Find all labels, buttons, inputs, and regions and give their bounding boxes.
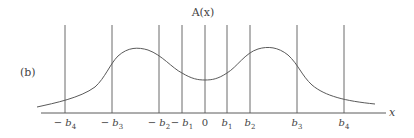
- tick-label-neg-b1: − b1: [171, 117, 193, 131]
- tick-label-zero: 0: [202, 117, 208, 128]
- boundary-lines: [65, 25, 344, 113]
- x-axis-label: x: [389, 106, 395, 119]
- tick-label-neg-b3: − b3: [101, 117, 123, 131]
- tick-label-b2: b2: [245, 117, 256, 131]
- tick-label-b4: b4: [339, 117, 350, 131]
- panel-label: (b): [20, 66, 36, 79]
- tick-label-b1: b1: [222, 117, 233, 131]
- tick-label-neg-b2: − b2: [148, 117, 170, 131]
- tick-label-neg-b4: − b4: [54, 117, 76, 131]
- tick-label-b3: b3: [292, 117, 303, 131]
- function-title: A(x): [192, 6, 215, 19]
- amplitude-curve: [37, 47, 375, 107]
